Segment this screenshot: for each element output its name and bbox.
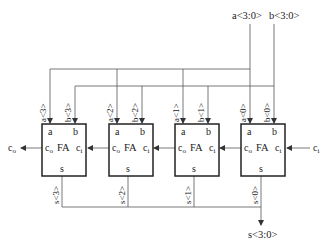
fa-label: FA [256,142,269,153]
carry-in-label: ci [313,142,319,155]
full-adder-1: a b co FA ci s [175,124,219,176]
fa-label: FA [57,142,70,153]
fa-label: FA [124,142,137,153]
label-b0: b<0> [262,103,272,122]
label-a1: a<1> [171,103,181,122]
fa-label: FA [190,142,203,153]
port-s: s [126,163,130,174]
port-s: s [192,163,196,174]
label-s2: s<2> [117,186,127,204]
ripple-carry-adder-diagram: a<3:0> b<3:0> a b c [0,0,324,245]
port-a: a [115,126,120,137]
bus-a-label: a<3:0> [232,10,262,21]
port-b: b [206,126,211,137]
label-b1: b<1> [196,103,206,122]
port-a: a [181,126,186,137]
port-s: s [259,163,263,174]
port-a: a [48,126,53,137]
label-s0: s<0> [250,186,260,204]
label-b2: b<2> [130,103,140,122]
bus-s-label: s<3:0> [248,229,277,240]
port-a: a [247,126,252,137]
port-s: s [60,163,64,174]
label-a0: a<0> [238,103,248,122]
label-a3: a<3> [38,103,48,122]
carry-out-label: co [8,142,16,155]
input-bit-labels: a<3> b<3> a<2> b<2> a<1> b<1> a<0> b<0> [38,103,272,122]
label-s3: s<3> [51,186,61,204]
full-adder-3: a b co FA ci s [42,124,86,176]
bus-b-label: b<3:0> [269,10,300,21]
sum-bit-labels: s<3> s<2> s<1> s<0> [51,186,260,204]
label-b3: b<3> [63,103,73,122]
label-s1: s<1> [183,186,193,204]
port-b: b [140,126,145,137]
label-a2: a<2> [105,103,115,122]
full-adder-2: a b co FA ci s [109,124,153,176]
port-b: b [73,126,78,137]
full-adder-0: a b co FA ci s [241,124,285,176]
port-b: b [272,126,277,137]
